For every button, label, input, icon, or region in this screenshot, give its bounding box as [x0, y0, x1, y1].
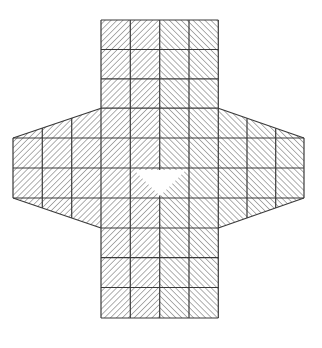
mesh-cell-wing	[42, 138, 71, 168]
mesh-cell-wing-top	[247, 118, 276, 138]
mesh-cell	[130, 50, 159, 79]
mesh-cell-wing	[72, 138, 101, 168]
mesh-cell-wing-top	[42, 118, 71, 138]
mesh-cell-wing	[72, 168, 101, 198]
mesh-cells	[13, 20, 304, 318]
mesh-cell-wing	[218, 168, 247, 198]
mesh-cell-wing-bottom	[42, 198, 71, 218]
mesh-cell	[130, 20, 159, 50]
mesh-cell	[189, 258, 218, 288]
mesh-cell	[189, 198, 218, 228]
mesh-cell	[189, 288, 218, 319]
mesh-cell	[101, 258, 130, 288]
mesh-cell-wing-bottom	[247, 198, 276, 218]
mesh-cell	[130, 108, 159, 138]
mesh-cell	[101, 108, 130, 138]
mesh-cell-wing	[42, 168, 71, 198]
mesh-cell	[130, 138, 159, 168]
mesh-cell	[101, 288, 130, 319]
mesh-cell	[189, 168, 218, 198]
mesh-cell	[101, 50, 130, 79]
mesh-cell-wing	[247, 138, 276, 168]
mesh-cell-wing	[247, 168, 276, 198]
mesh-cell	[101, 228, 130, 258]
mesh-cell	[130, 198, 159, 228]
mesh-cell	[189, 79, 218, 108]
mesh-cell	[101, 20, 130, 50]
mesh-cell	[160, 20, 189, 50]
mesh-cell	[130, 228, 159, 258]
mesh-cell	[160, 288, 189, 319]
mesh-cell	[189, 108, 218, 138]
mesh-cell	[160, 228, 189, 258]
mesh-cell	[189, 20, 218, 50]
mesh-cell	[101, 168, 130, 198]
mesh-cell	[160, 138, 189, 168]
mesh-cell	[160, 79, 189, 108]
mesh-cell-wing	[13, 138, 42, 168]
mesh-cell	[189, 138, 218, 168]
mesh-cell	[101, 79, 130, 108]
mesh-cell	[130, 79, 159, 108]
hatched-mesh-diagram	[0, 0, 322, 348]
mesh-cell-wing	[276, 168, 304, 198]
mesh-cell-wing	[13, 168, 42, 198]
mesh-cell	[130, 258, 159, 288]
mesh-cell	[160, 198, 189, 228]
mesh-cell	[160, 258, 189, 288]
mesh-cell-wing	[276, 138, 304, 168]
mesh-cell	[101, 138, 130, 168]
mesh-cell	[160, 50, 189, 79]
mesh-cell	[101, 198, 130, 228]
mesh-cell	[189, 50, 218, 79]
mesh-cell	[160, 108, 189, 138]
mesh-cell	[189, 228, 218, 258]
mesh-cell-wing	[218, 138, 247, 168]
mesh-cell	[130, 288, 159, 319]
